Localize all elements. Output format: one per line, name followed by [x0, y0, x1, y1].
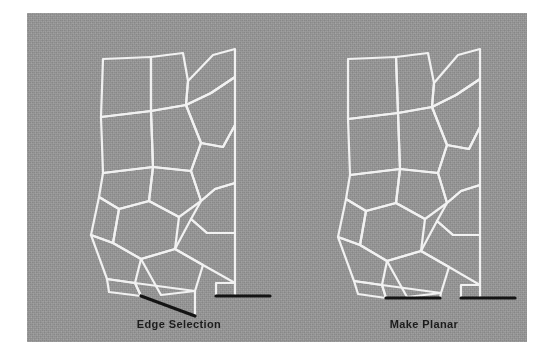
right-mesh-face [348, 113, 400, 175]
figure-root: Edge Selection Make Planar [0, 0, 553, 355]
right-mesh-face [432, 79, 480, 149]
right-mesh-face [461, 285, 480, 298]
caption-edge-selection: Edge Selection [98, 318, 260, 330]
right-mesh-group [338, 49, 515, 298]
right-mesh-face [338, 237, 387, 285]
right-mesh-face [432, 49, 480, 107]
mesh-right-make-planar [27, 13, 527, 342]
right-mesh-face [396, 53, 434, 113]
screenshot-plate: Edge Selection Make Planar [27, 13, 527, 342]
caption-make-planar: Make Planar [343, 318, 505, 330]
right-mesh-face [398, 107, 447, 173]
right-mesh-face [421, 221, 480, 285]
right-mesh-face [348, 57, 398, 119]
